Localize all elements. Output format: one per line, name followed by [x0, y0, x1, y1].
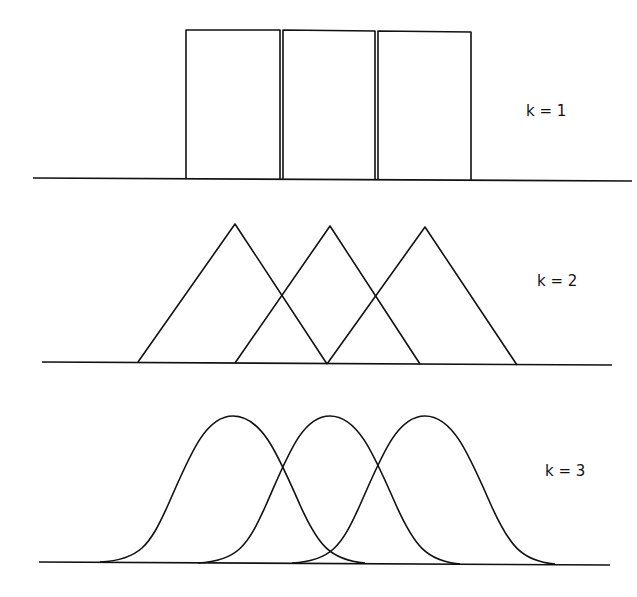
triangle-3 [327, 227, 517, 365]
baseline-k3 [39, 562, 610, 565]
label-k1: k = 1 [526, 102, 566, 120]
panel-k3 [39, 416, 610, 565]
triangle-2 [235, 226, 420, 364]
basis-functions-diagram [0, 0, 637, 597]
panel-k2 [42, 224, 612, 365]
box-1 [186, 30, 280, 179]
triangle-1 [138, 224, 327, 364]
bell-curve-1 [100, 416, 365, 563]
bell-curve-3 [292, 416, 555, 564]
bell-curve-2 [198, 416, 460, 564]
label-k2: k = 2 [537, 272, 577, 290]
label-k3: k = 3 [545, 462, 585, 480]
box-3 [378, 31, 471, 180]
box-2 [283, 30, 375, 180]
baseline-k1 [33, 178, 632, 181]
